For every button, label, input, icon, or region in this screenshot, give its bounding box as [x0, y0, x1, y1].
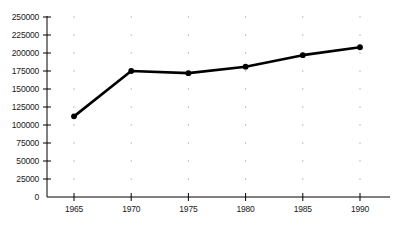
chart-plot-area	[0, 0, 395, 226]
y-axis-tick-label: 150000	[0, 84, 39, 94]
y-axis-tick-label: 75000	[0, 138, 39, 148]
y-axis-tick-label: 175000	[0, 66, 39, 76]
x-axis-tick-label: 1970	[122, 204, 140, 214]
y-axis-tick-label: 125000	[0, 102, 39, 112]
x-axis-tick-label: 1980	[237, 204, 255, 214]
grid-dots	[73, 16, 360, 179]
x-axis-tick-label: 1985	[294, 204, 312, 214]
data-point-marker	[357, 44, 363, 50]
data-point-marker	[71, 113, 77, 119]
y-axis-tick-label: 200000	[0, 48, 39, 58]
y-axis-tick-label: 25000	[0, 174, 39, 184]
y-axis-tick-label: 100000	[0, 120, 39, 130]
data-point-marker	[128, 68, 134, 74]
chart-axes	[47, 16, 390, 197]
data-line-series	[74, 47, 360, 116]
data-point-marker	[300, 52, 306, 58]
data-point-marker	[186, 70, 192, 76]
y-axis-tick-label: 225000	[0, 30, 39, 40]
data-point-marker	[243, 64, 249, 70]
y-axis-tick-label: 250000	[0, 12, 39, 22]
line-chart: 0250005000075000100000125000150000175000…	[0, 0, 395, 226]
data-point-markers	[71, 44, 363, 119]
y-axis-tick-label: 50000	[0, 156, 39, 166]
x-axis-tick-label: 1975	[179, 204, 197, 214]
x-axis-tick-label: 1990	[351, 204, 369, 214]
x-axis-tick-label: 1965	[65, 204, 83, 214]
y-axis-tick-label: 0	[0, 192, 39, 202]
